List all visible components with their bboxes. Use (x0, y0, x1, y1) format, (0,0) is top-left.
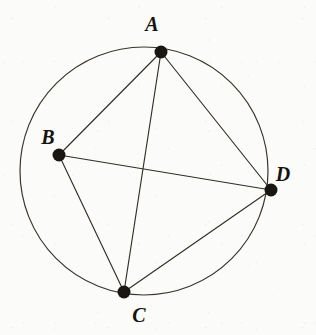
vertex-dot-d (265, 184, 278, 197)
vertex-dot-b (53, 149, 66, 162)
vertex-dot-a (155, 46, 168, 59)
chord-ac-diagonal (124, 52, 161, 292)
vertex-label-a: A (143, 13, 158, 35)
chord-bc (59, 155, 124, 292)
vertex-dot-c (118, 286, 131, 299)
chord-ab (59, 52, 161, 155)
vertex-label-d: D (275, 163, 290, 185)
chord-group (59, 52, 271, 292)
vertex-label-group: A B C D (40, 13, 290, 326)
geometry-figure: A B C D (0, 0, 316, 335)
vertex-label-b: B (40, 126, 54, 148)
chord-ad (161, 52, 271, 190)
vertex-label-c: C (132, 304, 146, 326)
chord-bd-diagonal (59, 155, 271, 190)
circumcircle (20, 47, 268, 295)
geometry-canvas: A B C D (0, 0, 316, 335)
chord-cd (124, 190, 271, 292)
